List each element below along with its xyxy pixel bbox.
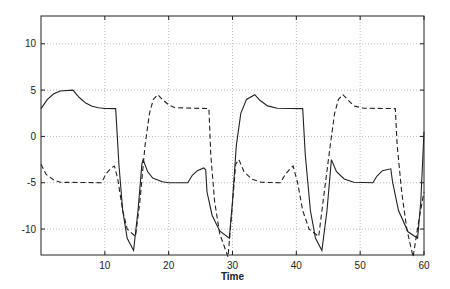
line-chart: 102030405060-10-50510 Time xyxy=(0,0,450,289)
x-tick-label: 20 xyxy=(163,260,175,271)
y-tick-label: 5 xyxy=(30,85,36,96)
axis-ticks: 102030405060-10-50510 xyxy=(22,16,430,271)
y-tick-label: 10 xyxy=(25,38,37,49)
x-tick-label: 10 xyxy=(99,260,111,271)
axes-frame xyxy=(41,16,424,255)
y-tick-label: 0 xyxy=(30,131,36,142)
x-tick-label: 40 xyxy=(291,260,303,271)
x-tick-label: 60 xyxy=(418,260,430,271)
x-axis-label: Time xyxy=(221,271,245,282)
y-tick-label: -10 xyxy=(22,224,37,235)
y-tick-label: -5 xyxy=(27,177,36,188)
x-tick-label: 30 xyxy=(227,260,239,271)
grid-lines xyxy=(41,16,424,255)
x-tick-label: 50 xyxy=(355,260,367,271)
